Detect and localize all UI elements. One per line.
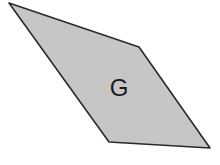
shape-label: G xyxy=(110,74,129,101)
diagram-canvas: G xyxy=(0,0,220,165)
